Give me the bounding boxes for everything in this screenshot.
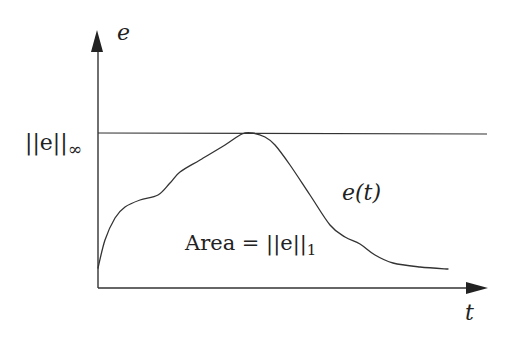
- sup-norm-subscript: ∞: [68, 139, 82, 159]
- area-label: Area = ||e||1: [184, 231, 316, 259]
- norm-diagram: e t ||e||∞ e(t) Area = ||e||1: [0, 0, 519, 343]
- area-label-text: Area = ||e||: [184, 231, 307, 256]
- sup-norm-line: [98, 133, 487, 134]
- svg-text:||e||∞: ||e||∞: [25, 130, 82, 159]
- curve-label: e(t): [342, 180, 381, 205]
- sup-norm-label: ||e||∞: [25, 130, 82, 159]
- x-axis-label: t: [465, 300, 474, 325]
- sup-norm-text: ||e||: [25, 130, 68, 156]
- y-axis-label: e: [117, 20, 130, 45]
- svg-text:Area = ||e||1: Area = ||e||1: [184, 231, 316, 259]
- x-axis-arrow-icon: [466, 282, 488, 294]
- y-axis-arrow-icon: [91, 30, 103, 52]
- area-label-subscript: 1: [307, 241, 317, 259]
